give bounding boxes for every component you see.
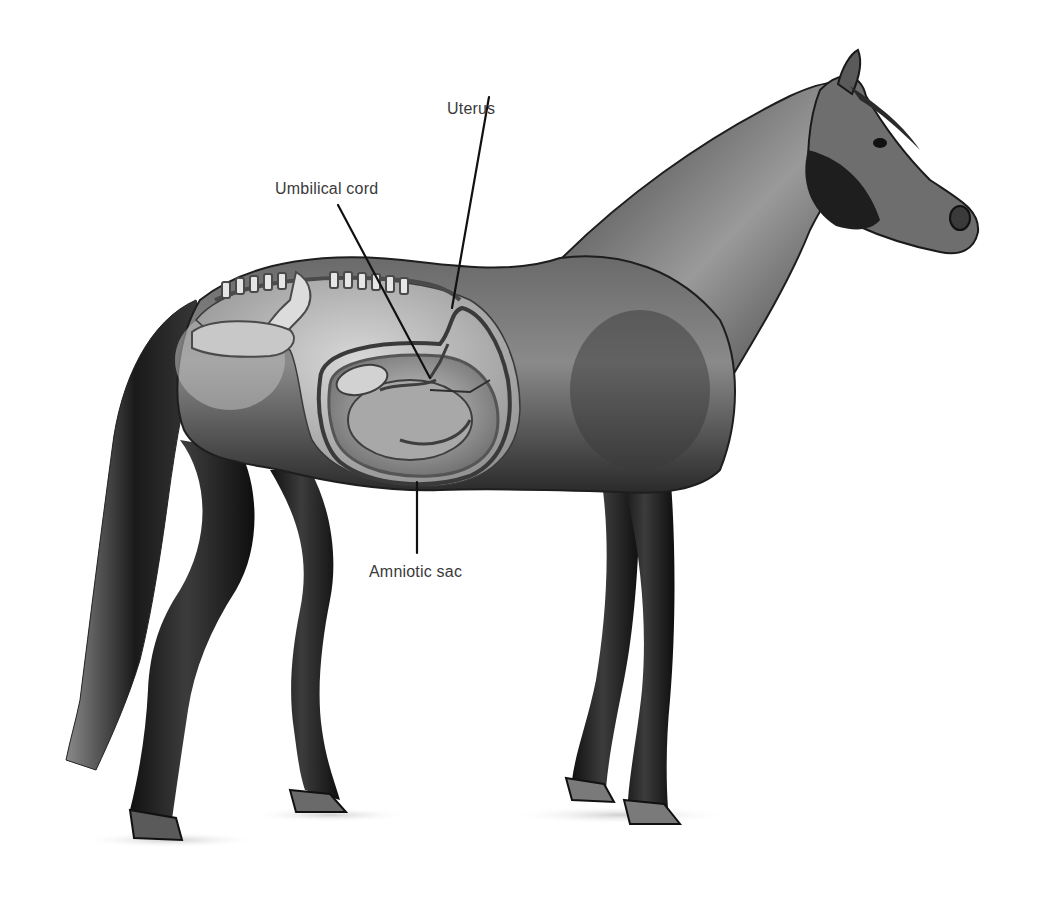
eye bbox=[873, 138, 887, 148]
shoulder-shading bbox=[570, 310, 710, 470]
front-leg-far bbox=[572, 470, 640, 790]
label-amniotic-sac: Amniotic sac bbox=[369, 564, 462, 580]
hind-leg-far bbox=[270, 470, 340, 800]
horse-anatomy-diagram: Uterus Umbilical cord Amniotic sac bbox=[0, 0, 1044, 916]
nostril bbox=[950, 206, 970, 230]
horse-illustration bbox=[0, 0, 1044, 916]
label-umbilical-cord: Umbilical cord bbox=[275, 181, 378, 197]
rectum bbox=[192, 321, 294, 356]
label-uterus: Uterus bbox=[447, 101, 495, 117]
